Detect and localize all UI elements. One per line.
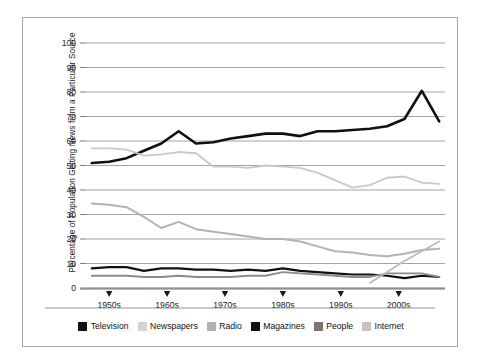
data-series-lines: [92, 91, 439, 283]
plot-area: 0102030405060708090100 1950s1960s1970s19…: [23, 18, 457, 318]
x-tick-label: 1980s: [271, 300, 294, 310]
chart-legend: TelevisionNewspapersRadioMagazinesPeople…: [23, 321, 459, 331]
legend-item-newspapers: Newspapers: [138, 321, 198, 331]
x-tick-label: 1970s: [213, 300, 236, 310]
legend-swatch-icon: [207, 322, 216, 331]
legend-item-people: People: [314, 321, 353, 331]
y-tick-label: 80: [66, 87, 76, 97]
legend-swatch-icon: [78, 322, 87, 331]
y-tick-label: 100: [62, 38, 77, 48]
x-tick-marker: [280, 291, 286, 297]
x-tick-label: 1990s: [329, 300, 352, 310]
x-tick-marker: [338, 291, 344, 297]
legend-item-label: Magazines: [263, 321, 305, 331]
x-tick-labels: 1950s1960s1970s1980s1990s2000s: [97, 300, 410, 310]
y-tick-label: 50: [66, 161, 76, 171]
x-tick-marker: [395, 291, 401, 297]
legend-item-internet: Internet: [362, 321, 404, 331]
series-line-television: [92, 91, 439, 163]
legend-item-label: Television: [91, 321, 129, 331]
x-tick-marker: [106, 291, 112, 297]
legend-item-radio: Radio: [207, 321, 242, 331]
legend-swatch-icon: [251, 322, 260, 331]
x-tick-marks: [106, 291, 402, 297]
x-tick-label: 1960s: [155, 300, 178, 310]
news-source-line-chart: Percentage of Population Getting News fr…: [0, 0, 482, 364]
y-tick-label: 90: [66, 63, 76, 73]
y-tick-label: 60: [66, 136, 76, 146]
legend-item-label: Newspapers: [150, 321, 198, 331]
y-tick-label: 10: [66, 259, 76, 269]
y-tick-labels: 0102030405060708090100: [62, 38, 77, 293]
x-tick-label: 2000s: [387, 300, 410, 310]
legend-item-television: Television: [78, 321, 128, 331]
chart-frame: Percentage of Population Getting News fr…: [22, 17, 458, 347]
series-line-radio: [92, 203, 439, 256]
legend-swatch-icon: [362, 322, 371, 331]
legend-item-magazines: Magazines: [251, 321, 305, 331]
series-line-newspapers: [92, 148, 439, 187]
x-tick-marker: [222, 291, 228, 297]
y-tick-label: 70: [66, 112, 76, 122]
y-tick-label: 20: [66, 234, 76, 244]
legend-swatch-icon: [138, 322, 147, 331]
legend-item-label: People: [326, 321, 353, 331]
x-tick-marker: [164, 291, 170, 297]
y-tick-label: 40: [66, 185, 76, 195]
legend-swatch-icon: [314, 322, 323, 331]
legend-item-label: Radio: [219, 321, 241, 331]
legend-item-label: Internet: [375, 321, 404, 331]
y-tick-label: 30: [66, 210, 76, 220]
y-tick-label: 0: [71, 283, 76, 293]
x-tick-label: 1950s: [97, 300, 120, 310]
